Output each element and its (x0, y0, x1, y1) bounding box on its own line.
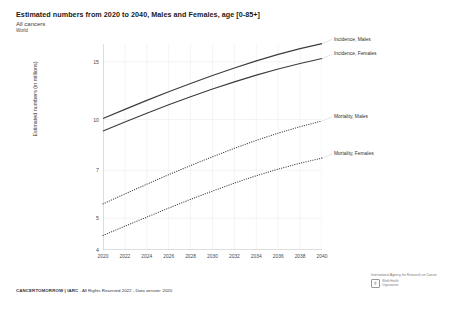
series-layer (103, 44, 322, 250)
footer-logo: International Agency for Research on Can… (371, 273, 437, 288)
legend-leader-line (322, 40, 332, 44)
series-line (103, 58, 322, 131)
footer-copyright: CANCERTOMORROW | IARC - All Rights Reser… (16, 288, 172, 293)
chart-subtitle: All cancers (16, 21, 260, 27)
legend-label[interactable]: Mortality, Males (334, 114, 368, 119)
x-tick-label: 2022 (119, 254, 130, 259)
x-tick-label: 2040 (317, 254, 328, 259)
x-tick-label: 2030 (207, 254, 218, 259)
legend-leader-line (322, 154, 332, 158)
legend-label[interactable]: Mortality, Females (334, 151, 374, 156)
y-tick-label: 10 (93, 117, 99, 123)
x-tick-label: 2028 (185, 254, 196, 259)
x-tick-label: 2026 (163, 254, 174, 259)
series-line (103, 158, 322, 235)
chart-page: Estimated numbers from 2020 to 2040, Mal… (0, 0, 451, 310)
chart-header: Estimated numbers from 2020 to 2040, Mal… (16, 10, 260, 33)
x-tick-label: 2032 (229, 254, 240, 259)
x-tick-label: 2036 (273, 254, 284, 259)
legend-label[interactable]: Incidence, Females (334, 51, 376, 56)
iarc-agency-label: International Agency for Research on Can… (371, 273, 437, 277)
legend-leader-line (322, 117, 332, 121)
x-tick-label: 2038 (295, 254, 306, 259)
y-tick-label: 5 (96, 215, 99, 221)
legend-label[interactable]: Incidence, Males (334, 37, 371, 42)
who-emblem-icon: ⚜ (371, 279, 380, 288)
legend-leader-line (322, 54, 332, 58)
page-title: Estimated numbers from 2020 to 2040, Mal… (16, 10, 260, 19)
footer-brand: CANCERTOMORROW | IARC (16, 288, 78, 293)
series-line (103, 121, 322, 204)
series-line (103, 44, 322, 119)
x-tick-label: 2034 (251, 254, 262, 259)
footer-rights: - All Rights Reserved 2022 - Data versio… (78, 288, 172, 293)
x-tick-label: 2024 (141, 254, 152, 259)
chart-region-label: World (16, 28, 260, 33)
plot-area: 1510754 20202022202420262028203020322034… (103, 44, 322, 250)
who-logo: ⚜ World Health Organization (371, 279, 437, 288)
y-axis-title: Estimated numbers (in millions) (32, 24, 38, 174)
y-tick-label: 7 (96, 167, 99, 173)
who-line-2: Organization (382, 284, 399, 288)
y-tick-label: 4 (96, 247, 99, 253)
who-logo-text: World Health Organization (382, 280, 399, 288)
y-tick-label: 15 (93, 59, 99, 65)
x-tick-label: 2020 (98, 254, 109, 259)
